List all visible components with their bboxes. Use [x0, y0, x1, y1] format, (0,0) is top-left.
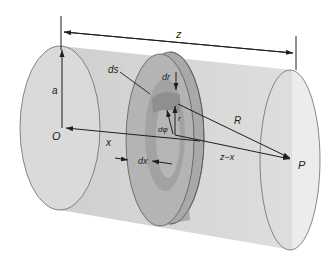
label-a: a — [52, 85, 58, 96]
label-dr: dr — [162, 72, 171, 82]
left-end-cap — [20, 46, 100, 210]
label-R: R — [234, 115, 241, 126]
cylinder-diagram: z a O x z−x R P r dφ dr ds — [0, 0, 335, 266]
label-ds: ds — [108, 64, 119, 75]
right-end-cap — [260, 70, 320, 250]
label-dx: dx — [138, 156, 148, 166]
label-x: x — [105, 137, 112, 148]
label-z-minus-x: z−x — [219, 152, 235, 162]
label-P: P — [298, 159, 306, 171]
label-dphi: dφ — [158, 125, 168, 134]
label-r: r — [178, 114, 181, 123]
label-O: O — [52, 130, 61, 142]
label-z: z — [175, 28, 182, 40]
